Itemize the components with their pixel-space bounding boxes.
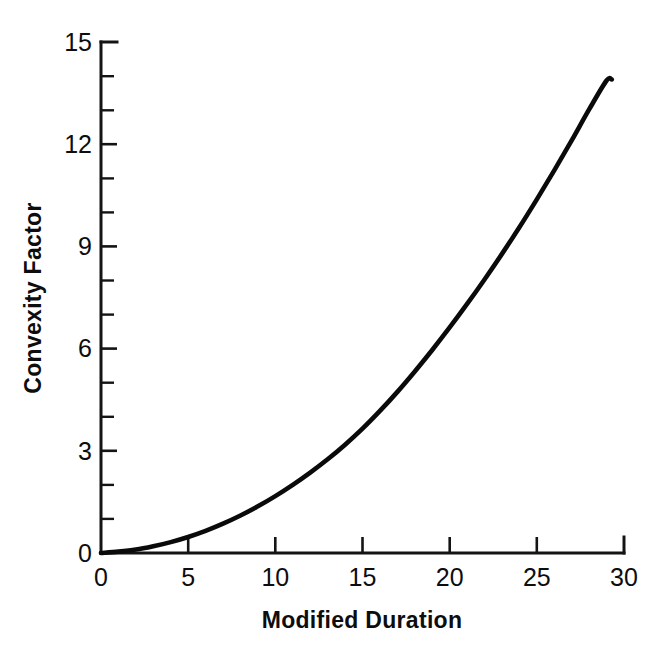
y-tick-label-6: 6 [78,334,92,362]
x-tick-label-5: 5 [181,563,195,591]
convexity-factor-chart: 0 3 6 9 12 15 0 5 10 15 20 25 30 [0,0,662,652]
y-tick-label-15: 15 [64,28,92,56]
y-axis-title: Convexity Factor [20,202,46,393]
y-tick-label-9: 9 [78,232,92,260]
chart-figure: 0 3 6 9 12 15 0 5 10 15 20 25 30 [0,0,662,652]
y-tick-label-0: 0 [78,539,92,567]
x-tick-label-15: 15 [349,563,377,591]
y-tick-label-3: 3 [78,437,92,465]
y-tick-label-12: 12 [64,130,92,158]
x-axis-title: Modified Duration [262,607,463,633]
x-tick-label-25: 25 [523,563,551,591]
x-tick-label-10: 10 [261,563,289,591]
x-tick-label-30: 30 [610,563,638,591]
x-tick-label-0: 0 [94,563,108,591]
x-tick-label-20: 20 [436,563,464,591]
